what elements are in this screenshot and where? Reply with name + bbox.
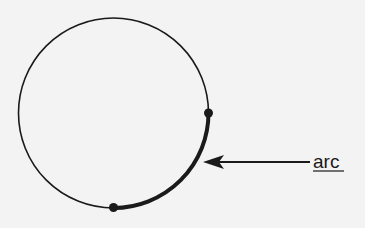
arc-label: arc [313, 151, 339, 172]
circle-arc-diagram: arc [0, 0, 365, 228]
arc-end-point [109, 203, 118, 212]
arc-start-point [204, 109, 213, 118]
highlighted-arc [114, 113, 209, 208]
